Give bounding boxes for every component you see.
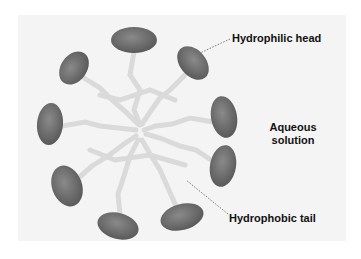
head-ellipse	[207, 143, 240, 189]
head-ellipse	[46, 161, 89, 211]
head-ellipse	[157, 199, 206, 236]
aqueous-solution-label: Aqueous solution	[266, 121, 320, 147]
aqueous-solution-line2: solution	[266, 134, 320, 147]
head-ellipse	[208, 94, 241, 140]
aqueous-solution-line1: Aqueous	[266, 121, 320, 134]
head-leader-line	[200, 39, 230, 53]
hydrophobic-tail-label: Hydrophobic tail	[229, 212, 316, 224]
head-ellipse	[35, 102, 65, 146]
head-ellipse	[94, 208, 141, 244]
head-ellipse	[111, 27, 157, 53]
hydrophilic-head-label: Hydrophilic head	[232, 32, 321, 44]
